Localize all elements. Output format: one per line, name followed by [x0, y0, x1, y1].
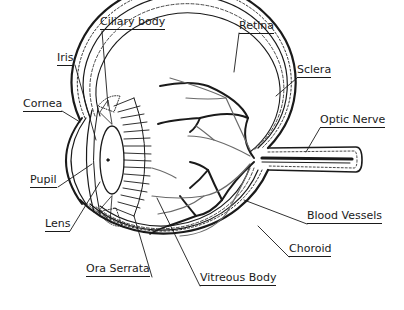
blood-vessels-dark [150, 83, 254, 234]
label-retina: Retina [239, 19, 274, 34]
label-sclera: Sclera [297, 63, 331, 78]
label-cornea: Cornea [23, 97, 62, 112]
label-choroid: Choroid [289, 242, 331, 257]
label-pupil: Pupil [30, 173, 57, 188]
lens-shape [100, 126, 124, 194]
label-blood-vessels: Blood Vessels [307, 209, 382, 224]
label-iris: Iris [57, 51, 74, 66]
label-lens: Lens [45, 217, 70, 232]
label-ora-serrata: Ora Serrata [86, 262, 150, 277]
label-optic-nerve: Optic Nerve [320, 113, 385, 128]
label-ciliary-body: Ciliary body [100, 15, 165, 30]
eye-diagram [0, 0, 404, 310]
label-vitreous-body: Vitreous Body [200, 271, 276, 286]
cornea-shape [66, 118, 86, 204]
optic-nerve-shape [262, 147, 362, 172]
ciliary-fibers [114, 98, 151, 216]
